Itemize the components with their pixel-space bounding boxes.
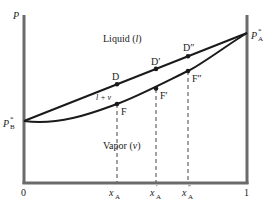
svg-text:A: A — [115, 193, 120, 201]
svg-text:″: ″ — [188, 183, 191, 191]
svg-text:B: B — [10, 123, 15, 131]
x-tick-xA-double-prime: x ″ A — [181, 183, 193, 201]
label-D-double-prime: D″ — [183, 42, 194, 53]
label-PA-star: P * A — [250, 27, 263, 43]
two-phase-region-label: l + v — [96, 93, 112, 102]
label-D: D — [112, 71, 119, 82]
svg-text:A: A — [156, 193, 161, 201]
x-tick-0: 0 — [21, 187, 26, 198]
point-D-prime — [154, 67, 159, 72]
point-D-double-prime — [186, 54, 191, 59]
svg-text:*: * — [258, 27, 262, 35]
svg-text:x: x — [149, 187, 155, 198]
y-axis-label: P — [12, 10, 19, 21]
point-F — [115, 102, 120, 107]
label-F: F — [121, 106, 127, 117]
svg-text:P: P — [250, 30, 257, 41]
svg-text:x: x — [108, 187, 114, 198]
liquid-line — [24, 33, 247, 121]
svg-text:A: A — [188, 193, 193, 201]
svg-text:*: * — [10, 115, 14, 123]
point-F-prime — [154, 86, 159, 91]
x-tick-xA: x A — [108, 187, 120, 201]
liquid-region-label: Liquid (l) — [103, 33, 142, 45]
svg-text:x: x — [181, 187, 187, 198]
point-F-double-prime — [186, 69, 191, 74]
x-tick-xA-prime: x ′ A — [149, 183, 161, 201]
label-PB-star: P * B — [2, 115, 15, 131]
svg-text:P: P — [2, 118, 9, 129]
x-tick-1: 1 — [244, 187, 249, 198]
label-F-double-prime: F″ — [192, 73, 202, 84]
phase-diagram: P P * B P * A Liquid (l) Vapor (v) l + v… — [0, 0, 269, 211]
point-D — [115, 82, 120, 87]
svg-text:A: A — [258, 35, 263, 43]
label-F-prime: F′ — [160, 90, 168, 101]
vapor-region-label: Vapor (v) — [103, 140, 141, 152]
label-D-prime: D′ — [151, 56, 160, 67]
